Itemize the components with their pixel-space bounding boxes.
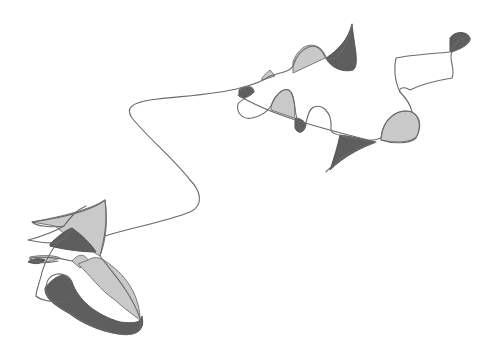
line-stroke [238, 95, 376, 172]
light-shape [271, 90, 295, 118]
line-stroke [129, 24, 352, 180]
dark-shape [239, 87, 254, 97]
dark-shaded-regions [28, 24, 470, 334]
abstract-line-drawing [0, 0, 498, 360]
light-shaded-regions [30, 45, 419, 320]
line-stroke [105, 180, 199, 236]
pencil-line-strokes [28, 24, 470, 335]
light-shape [293, 45, 327, 73]
line-stroke [400, 52, 454, 112]
light-shape [381, 111, 419, 142]
dark-shape [326, 24, 356, 71]
